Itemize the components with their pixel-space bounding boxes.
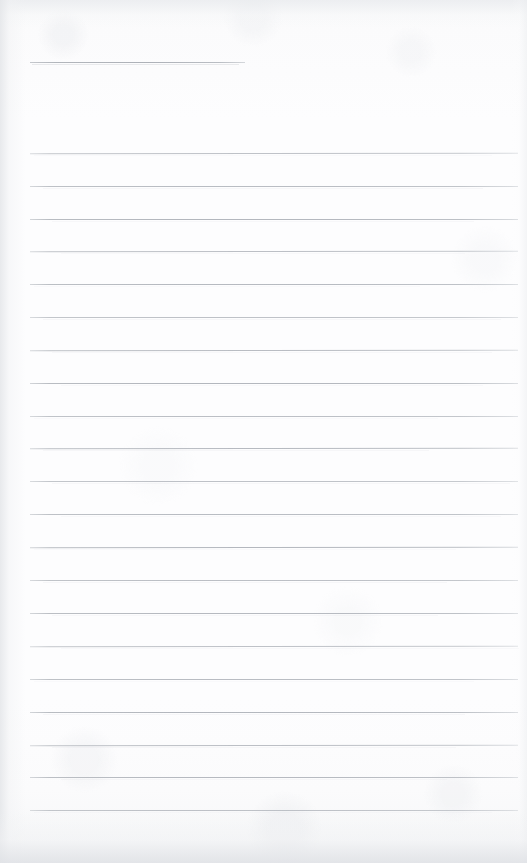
notepad-page — [0, 0, 527, 863]
writing-area[interactable] — [30, 140, 518, 825]
header-rule-line — [30, 62, 245, 63]
header-rule-ghost — [32, 64, 239, 65]
